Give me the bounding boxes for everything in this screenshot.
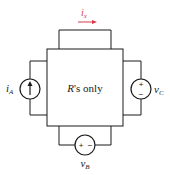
current-source-iA <box>20 79 40 99</box>
plus-sign: + <box>139 80 144 89</box>
current-label: ix <box>81 7 88 20</box>
left-wire-top <box>30 61 47 79</box>
label-iA: iA <box>6 82 14 96</box>
voltage-source-vB: + − <box>75 135 95 155</box>
circuit-diagram: R's only ix iA + − vC + − vB <box>0 0 170 175</box>
left-wire-bottom <box>30 99 47 115</box>
bottom-wire-left <box>59 126 75 145</box>
top-wire-loop <box>59 30 111 49</box>
arrow-right-icon <box>92 20 97 24</box>
minus-sign: − <box>139 90 144 99</box>
label-vC: vC <box>154 83 164 97</box>
bottom-wire-right <box>95 126 111 145</box>
right-wire-bottom <box>123 99 141 115</box>
minus-sign: − <box>88 141 93 150</box>
label-vB: vB <box>80 157 90 171</box>
plus-sign: + <box>79 141 84 150</box>
network-label: R's only <box>66 82 103 94</box>
voltage-source-vC: + − <box>131 79 151 99</box>
current-ix-indicator: ix <box>78 7 97 24</box>
right-wire-top <box>123 61 141 79</box>
